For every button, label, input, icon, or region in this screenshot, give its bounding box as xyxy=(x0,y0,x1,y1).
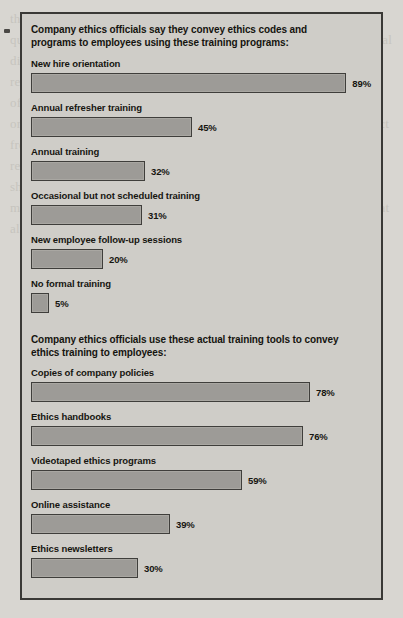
bar-fill xyxy=(31,514,170,534)
bar-fill xyxy=(31,382,310,402)
bar-group: No formal training 5% xyxy=(31,278,371,313)
bar-group: Videotaped ethics programs 59% xyxy=(31,455,371,490)
bar-fill xyxy=(31,293,49,313)
bar-value: 30% xyxy=(144,563,163,574)
bar-value: 59% xyxy=(248,475,267,486)
chart-section-training-tools: Company ethics officials use these actua… xyxy=(31,333,371,578)
bar-fill xyxy=(31,117,192,137)
section-heading-training-tools: Company ethics officials use these actua… xyxy=(31,333,351,359)
bar-group: New employee follow-up sessions 20% xyxy=(31,234,371,269)
bar-row: 59% xyxy=(31,470,371,490)
bar-label: Annual training xyxy=(31,146,371,158)
bar-value: 39% xyxy=(176,519,195,530)
bar-group: Online assistance 39% xyxy=(31,499,371,534)
bar-value: 31% xyxy=(148,210,167,221)
bar-row: 20% xyxy=(31,249,371,269)
bar-label: Occasional but not scheduled training xyxy=(31,190,371,202)
bar-fill xyxy=(31,205,142,225)
bar-label: Online assistance xyxy=(31,499,371,511)
bar-row: 30% xyxy=(31,558,371,578)
scan-artifact-mark xyxy=(4,29,10,33)
bar-row: 39% xyxy=(31,514,371,534)
bar-fill xyxy=(31,558,138,578)
bar-value: 20% xyxy=(109,254,128,265)
bar-value: 78% xyxy=(316,387,335,398)
bar-group: Annual training 32% xyxy=(31,146,371,181)
bar-value: 5% xyxy=(55,298,69,309)
bar-fill xyxy=(31,249,103,269)
bar-fill xyxy=(31,161,145,181)
bar-label: New employee follow-up sessions xyxy=(31,234,371,246)
bar-fill xyxy=(31,426,303,446)
bar-value: 89% xyxy=(352,78,371,89)
bar-fill xyxy=(31,470,242,490)
bar-label: No formal training xyxy=(31,278,371,290)
bar-value: 76% xyxy=(309,431,328,442)
bar-label: Ethics newsletters xyxy=(31,543,371,555)
bar-row: 89% xyxy=(31,73,371,93)
bar-group: Occasional but not scheduled training 31… xyxy=(31,190,371,225)
bar-label: Ethics handbooks xyxy=(31,411,371,423)
bar-row: 78% xyxy=(31,382,371,402)
bar-value: 45% xyxy=(198,122,217,133)
section-heading-training-programs: Company ethics officials say they convey… xyxy=(31,23,351,49)
bar-fill xyxy=(31,73,346,93)
bar-group: New hire orientation 89% xyxy=(31,58,371,93)
bar-row: 5% xyxy=(31,293,371,313)
bar-label: New hire orientation xyxy=(31,58,371,70)
chart-section-training-programs: Company ethics officials say they convey… xyxy=(31,23,371,313)
bar-row: 76% xyxy=(31,426,371,446)
bar-group: Annual refresher training 45% xyxy=(31,102,371,137)
bar-row: 45% xyxy=(31,117,371,137)
bar-row: 32% xyxy=(31,161,371,181)
bar-value: 32% xyxy=(151,166,170,177)
bar-group: Ethics handbooks 76% xyxy=(31,411,371,446)
bar-label: Annual refresher training xyxy=(31,102,371,114)
bar-group: Ethics newsletters 30% xyxy=(31,543,371,578)
bar-label: Videotaped ethics programs xyxy=(31,455,371,467)
bar-label: Copies of company policies xyxy=(31,367,371,379)
bar-row: 31% xyxy=(31,205,371,225)
bar-group: Copies of company policies 78% xyxy=(31,367,371,402)
ethics-training-chart-panel: Company ethics officials say they convey… xyxy=(20,12,383,600)
